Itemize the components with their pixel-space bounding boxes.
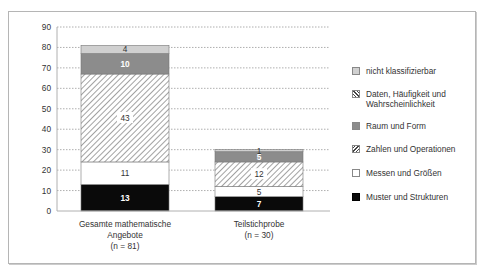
x-category-label-line: Teilstichprobe (194, 219, 324, 230)
data-label: 7 (257, 199, 262, 209)
y-tick-label: 40 (42, 124, 52, 134)
y-tick-label: 10 (42, 186, 52, 196)
y-tick-label: 70 (42, 63, 52, 73)
data-label: 11 (121, 168, 130, 178)
legend-item: Daten, Häufigkeit undWahrscheinlichkeit (352, 89, 446, 109)
legend-item: Zahlen und Operationen (352, 144, 456, 154)
legend-label: Messen und Größen (366, 168, 442, 178)
legend-swatch (352, 67, 360, 75)
legend-label: Muster und Strukturen (366, 192, 448, 202)
x-category-label-line: (n = 30) (194, 230, 324, 241)
y-tick-label: 90 (42, 22, 52, 32)
data-label: 4 (123, 44, 128, 54)
x-category-label: Teilstichprobe(n = 30) (194, 219, 324, 241)
x-category-label: Gesamte mathematischeAngebote(n = 81) (60, 219, 190, 252)
x-category-label-line: Gesamte mathematische (60, 219, 190, 230)
data-label: 43 (120, 113, 130, 123)
data-label: 5 (257, 187, 262, 197)
legend-item: Raum und Form (352, 121, 426, 131)
legend-swatch (352, 90, 360, 98)
legend-item: Muster und Strukturen (352, 192, 448, 202)
data-label: 1 (257, 146, 262, 156)
y-tick-label: 50 (42, 104, 52, 114)
y-tick-label: 80 (42, 42, 52, 52)
legend-label: Raum und Form (366, 121, 426, 131)
legend-item: Messen und Größen (352, 168, 442, 178)
legend-swatch (352, 169, 360, 177)
legend-swatch (352, 145, 360, 153)
data-label: 10 (120, 59, 130, 69)
y-tick-label: 30 (42, 145, 52, 155)
x-category-label-line: Angebote (60, 230, 190, 241)
legend-label: nicht klassifizierbar (366, 66, 436, 76)
data-label: 13 (120, 193, 130, 203)
y-tick-label: 0 (46, 206, 51, 216)
legend-item: nicht klassifizierbar (352, 66, 436, 76)
legend-swatch (352, 122, 360, 130)
data-label: 12 (254, 169, 264, 179)
y-tick-label: 60 (42, 83, 52, 93)
legend-label: Daten, Häufigkeit undWahrscheinlichkeit (366, 89, 446, 109)
legend-swatch (352, 193, 360, 201)
x-category-label-line: (n = 81) (60, 241, 190, 252)
y-tick-label: 20 (42, 165, 52, 175)
legend-label: Zahlen und Operationen (366, 144, 456, 154)
